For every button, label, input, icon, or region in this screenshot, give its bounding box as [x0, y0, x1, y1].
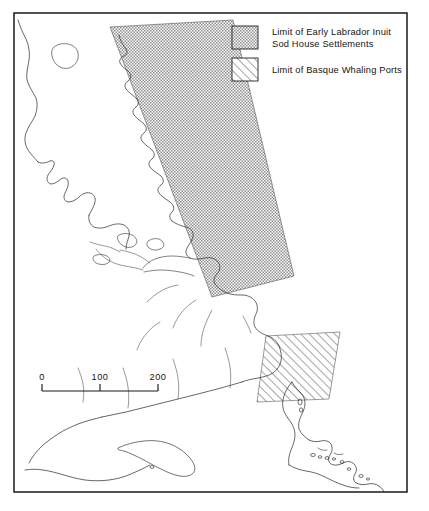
legend-label-basque-line1: Limit of Basque Whaling Ports [272, 65, 402, 75]
legend-swatch-hatch-icon [232, 58, 258, 81]
zone-basque-whaling [257, 332, 340, 402]
map-canvas: 0 100 200 Limit of Early Labrador Inuit … [0, 0, 429, 511]
legend-label-inuit-line2: Sod House Settlements [272, 39, 374, 49]
scale-tick-200: 200 [150, 372, 167, 382]
legend-swatch-stipple-icon [232, 26, 258, 49]
scale-tick-0: 0 [39, 372, 45, 382]
scale-tick-100: 100 [92, 372, 109, 382]
map-figure: 0 100 200 Limit of Early Labrador Inuit … [0, 0, 429, 511]
legend-label-inuit-line1: Limit of Early Labrador Inuit [272, 27, 391, 37]
